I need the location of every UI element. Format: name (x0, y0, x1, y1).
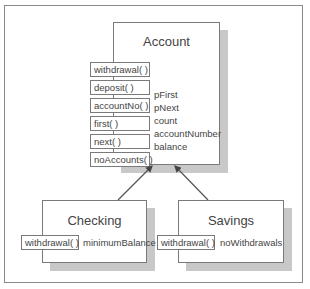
inheritance-arrows (0, 0, 310, 289)
checking-to-account-arrow (118, 166, 152, 200)
savings-to-account-arrow (175, 166, 208, 200)
